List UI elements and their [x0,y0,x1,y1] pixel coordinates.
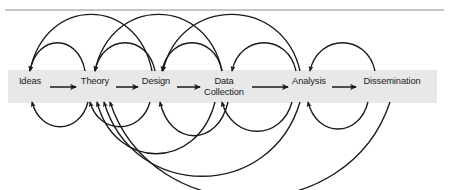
research-process-figure: IdeasTheoryDesignData CollectionAnalysis… [0,0,449,190]
arc-analysis-to-theory-long [95,14,222,71]
arc-below-theory-to-ideas [32,102,88,127]
arc-dissemination-to-analysis-short [310,43,375,71]
arc-below-design-to-theory [90,102,150,127]
feedback-arcs-below-layer [32,102,390,190]
arc-below-analysis-to-theory [104,102,300,176]
arc-below-dissemination-to-analysis [308,102,368,129]
arc-below-analysis-to-datacollection [222,102,292,131]
arc-below-datacollection-to-design [160,102,228,136]
diagram-canvas [0,0,449,190]
arc-design-to-ideas-long [30,14,152,71]
arc-below-dissemination-to-theory [110,102,390,190]
feedback-arcs-above-layer [30,14,375,71]
arc-dissemination-to-design-long [163,14,300,71]
arc-analysis-to-datacollection-short [232,43,296,71]
